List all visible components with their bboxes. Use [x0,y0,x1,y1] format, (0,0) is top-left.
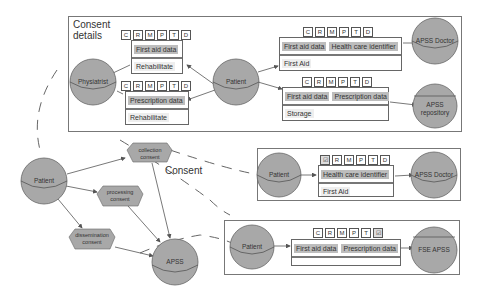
patient-label-top: Patient [206,78,266,85]
flag-p[interactable]: P [157,30,167,40]
flag-d[interactable]: D [181,81,191,91]
flag-r[interactable]: R [133,81,143,91]
purpose-label: First Aid [282,59,311,68]
flag-t[interactable]: T [350,77,360,87]
patient-label-flow: Patient [14,177,74,184]
purpose-label: Rehabilitate [134,62,175,71]
flag-r[interactable]: R [332,155,342,165]
dissemination-line1: dissemination [71,232,113,239]
flag-p[interactable]: P [356,155,366,165]
flag-r[interactable]: R [314,77,324,87]
consent-card-first-aid-rehab: First aid data Rehabilitate [131,40,183,74]
flag-t[interactable]: T [351,27,361,37]
collection-consent-label: collection consent [129,147,171,161]
physiatrist-label: Physiatrist [63,78,123,85]
flag-m[interactable]: M [145,81,155,91]
fse-apss-label: FSE APSS [404,246,464,253]
flag-t[interactable]: T [361,228,371,238]
data-chip: First aid data [285,92,329,101]
flag-r[interactable]: R [325,228,335,238]
data-chip: First aid data [282,42,326,51]
data-chip: First aid data [134,45,178,54]
flag-c[interactable]: C [121,30,131,40]
flag-c[interactable]: C [303,27,313,37]
consent-flags-middle: ☑ R M P T D [320,155,390,165]
flag-d[interactable]: D [380,155,390,165]
data-chip: First aid data [294,244,338,253]
title-line-2: details [73,30,110,41]
patient-label-bottom: Patient [222,243,282,250]
purpose-label: Rehabilitate [128,113,169,122]
dissemination-consent-label: dissemination consent [71,232,113,246]
consent-card-prescription-rehab: Prescription data Rehabilitate [125,91,189,125]
flag-c[interactable]: C [313,228,323,238]
title-line-1: Consent [73,19,110,30]
consent-card-first-aid-identifier: First aid data Health care identifier Fi… [279,37,402,71]
purpose-label: Storage [285,109,314,118]
data-chip: Prescription data [332,92,389,101]
patient-label-middle: Patient [249,171,309,178]
consent-card-storage: First aid data Prescription data Storage [282,87,389,121]
flag-d[interactable]: D [363,27,373,37]
processing-consent-label: processing consent [99,189,141,203]
processing-line2: consent [99,196,141,203]
apss-repository-line2: repository [405,109,465,117]
consent-flags-bottom-left: C R M P T D [121,81,191,91]
consent-card-middle: Health care identifier First Aid [318,165,394,197]
flag-m[interactable]: M [145,30,155,40]
flag-p[interactable]: P [338,77,348,87]
flag-m[interactable]: M [326,77,336,87]
apss-label: APSS [145,258,205,265]
flag-m[interactable]: M [344,155,354,165]
flag-t[interactable]: T [368,155,378,165]
data-chip: Prescription data [128,96,185,105]
flag-d-checked[interactable]: ☑ [373,228,383,238]
consent-label: Consent [165,165,202,176]
apss-doctor-label-middle: APSS Doctor [404,171,464,178]
flag-p[interactable]: P [349,228,359,238]
flag-d[interactable]: D [362,77,372,87]
flag-m[interactable]: M [337,228,347,238]
flag-c[interactable]: C [302,77,312,87]
flag-c-checked[interactable]: ☑ [320,155,330,165]
flag-p[interactable]: P [339,27,349,37]
flag-r[interactable]: R [133,30,143,40]
collection-line1: collection [129,147,171,154]
flag-t[interactable]: T [169,30,179,40]
flag-d[interactable]: D [181,30,191,40]
consent-card-bottom: First aid data Prescription data [291,239,401,266]
flag-t[interactable]: T [169,81,179,91]
collection-line2: consent [129,154,171,161]
data-chip: Health care identifier [329,42,397,51]
consent-flags-storage: C R M P T D [302,77,372,87]
consent-flags-top-left: C R M P T D [121,30,191,40]
apss-repository-line1: APSS [405,101,465,109]
flag-m[interactable]: M [327,27,337,37]
consent-details-title: Consent details [73,19,110,41]
flag-p[interactable]: P [157,81,167,91]
flag-r[interactable]: R [315,27,325,37]
data-chip: Health care identifier [321,170,389,179]
dissemination-line2: consent [71,239,113,246]
consent-flags-bottom: C R M P T ☑ [313,228,383,238]
consent-flags-top-right: C R M P T D [303,27,373,37]
processing-line1: processing [99,189,141,196]
purpose-label: First Aid [321,187,350,196]
apss-repository-label: APSS repository [405,101,465,117]
data-chip: Prescription data [341,244,398,253]
apss-doctor-label-top: APSS Doctor [405,37,465,44]
